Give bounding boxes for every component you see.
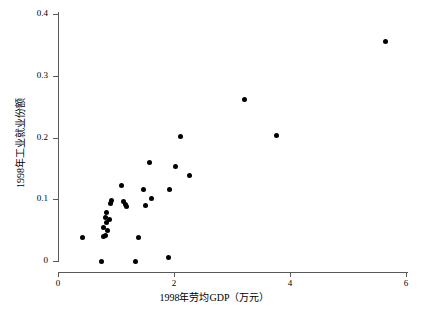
data-point [149, 196, 154, 201]
data-point [107, 217, 112, 222]
data-point [187, 173, 192, 178]
data-point [104, 210, 109, 215]
y-tick-label: 0.2 [37, 133, 48, 142]
data-point [141, 187, 146, 192]
data-point [80, 235, 85, 240]
y-tick-mark [53, 14, 58, 15]
data-point [119, 183, 124, 188]
x-axis-title: 1998年劳均GDP（万元） [0, 292, 429, 304]
data-point [124, 204, 129, 209]
data-point [242, 97, 247, 102]
x-tick-mark [406, 272, 407, 277]
data-point [99, 259, 104, 264]
data-point [383, 39, 388, 44]
y-tick-label: 0.1 [37, 194, 48, 203]
y-tick-mark [53, 199, 58, 200]
y-tick-label: 0.4 [37, 9, 48, 18]
scatter-chart-figure: 00.10.20.30.4 0246 1998年劳均GDP（万元） 1998年工… [0, 0, 429, 315]
data-point [274, 133, 279, 138]
x-tick-mark [290, 272, 291, 277]
data-point [133, 259, 138, 264]
x-axis-line [58, 272, 408, 273]
y-tick-label: 0.3 [37, 71, 48, 80]
data-point [173, 164, 178, 169]
data-point [103, 233, 108, 238]
plot-area [58, 14, 410, 272]
y-axis-line [58, 12, 59, 262]
data-point [109, 198, 114, 203]
x-tick-label: 4 [280, 279, 300, 288]
x-tick-label: 2 [164, 279, 184, 288]
data-point [147, 160, 152, 165]
data-point [166, 255, 171, 260]
data-point [143, 203, 148, 208]
data-point [178, 134, 183, 139]
y-tick-label: 0 [44, 256, 49, 265]
x-tick-label: 6 [396, 279, 416, 288]
data-point [167, 187, 172, 192]
x-tick-mark [174, 272, 175, 277]
data-point [136, 235, 141, 240]
y-axis-title: 1998年工业就业份额 [14, 14, 28, 272]
data-point [105, 228, 110, 233]
y-tick-mark [53, 76, 58, 77]
x-tick-mark [58, 272, 59, 277]
y-tick-mark [53, 261, 58, 262]
x-tick-label: 0 [48, 279, 68, 288]
y-tick-mark [53, 138, 58, 139]
